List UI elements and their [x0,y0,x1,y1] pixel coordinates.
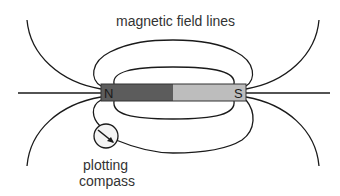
bar-magnet [101,84,246,101]
field-diagram [0,0,340,196]
compass-label-line2: compass [79,174,135,188]
field-line-far-right-top [246,20,319,89]
compass-icon [94,124,118,148]
field-line-far-left-top [27,20,101,89]
field-line-far-right-bottom [246,97,319,166]
north-pole-label: N [104,87,113,100]
field-line-outer-bottom [93,100,253,153]
field-line-inner-bottom [114,101,234,119]
field-lines-label: magnetic field lines [116,14,235,28]
field-line-inner-top [114,67,234,84]
field-line-far-left-bottom [27,97,101,166]
field-line-outer-top [94,40,253,86]
compass-label-line1: plotting [83,158,128,172]
south-pole-label: S [234,87,243,100]
